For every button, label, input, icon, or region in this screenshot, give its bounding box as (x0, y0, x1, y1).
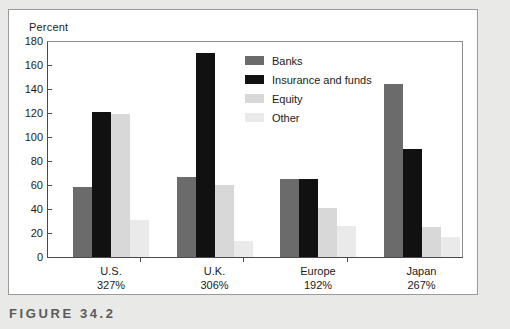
bar-group (384, 41, 460, 257)
bar[interactable] (196, 53, 215, 257)
x-axis-label: U.K.306% (165, 264, 265, 292)
bar[interactable] (73, 187, 92, 257)
x-axis-label-percent: 306% (165, 278, 265, 292)
y-axis-tick-label: 0 (37, 251, 43, 263)
bar[interactable] (177, 177, 196, 257)
legend-item[interactable]: Equity (245, 90, 372, 107)
y-axis-tick-labels: 180160140120100806040200 (9, 10, 43, 329)
y-axis-tick-label: 120 (25, 107, 43, 119)
x-axis-label-name: U.K. (204, 265, 225, 277)
legend-item[interactable]: Banks (245, 52, 372, 69)
figure-caption: FIGURE 34.2 (9, 306, 116, 321)
y-axis-tick-mark (47, 233, 52, 234)
bar-group (73, 41, 149, 257)
legend-label: Insurance and funds (272, 74, 372, 86)
legend-swatch-icon (245, 113, 264, 122)
legend-swatch-icon (245, 75, 264, 84)
bar[interactable] (337, 226, 356, 257)
legend-item[interactable]: Other (245, 109, 372, 126)
x-axis-label-name: Europe (300, 265, 335, 277)
x-axis-tick-mark (140, 257, 141, 262)
bar[interactable] (111, 114, 130, 257)
x-axis-label-percent: 327% (61, 278, 161, 292)
y-axis-tick-label: 20 (31, 227, 43, 239)
y-axis-tick-label: 100 (25, 131, 43, 143)
y-axis-tick-mark (47, 185, 52, 186)
legend-label: Equity (272, 93, 303, 105)
y-axis-tick-label: 80 (31, 155, 43, 167)
x-axis-label: Europe192% (268, 264, 368, 292)
y-axis-tick-label: 40 (31, 203, 43, 215)
x-axis-label-percent: 192% (268, 278, 368, 292)
bar-group (177, 41, 253, 257)
y-axis-tick-mark (47, 113, 52, 114)
y-axis-tick-label: 60 (31, 179, 43, 191)
chart-legend: BanksInsurance and fundsEquityOther (245, 52, 372, 128)
legend-item[interactable]: Insurance and funds (245, 71, 372, 88)
legend-swatch-icon (245, 94, 264, 103)
bar[interactable] (403, 149, 422, 257)
x-axis-baseline (47, 257, 463, 258)
bar[interactable] (299, 179, 318, 257)
x-axis-label: Japan267% (372, 264, 472, 292)
legend-label: Other (272, 112, 300, 124)
bar[interactable] (441, 237, 460, 257)
y-axis-tick-label: 160 (25, 59, 43, 71)
bar[interactable] (92, 112, 111, 257)
bar[interactable] (234, 241, 253, 257)
y-axis-tick-mark (47, 161, 52, 162)
y-axis-tick-mark (47, 65, 52, 66)
bar[interactable] (280, 179, 299, 257)
x-axis-label-percent: 267% (372, 278, 472, 292)
legend-label: Banks (272, 55, 303, 67)
bar[interactable] (130, 220, 149, 257)
figure-panel: Percent 180160140120100806040200 BanksIn… (8, 9, 478, 295)
y-axis-tick-mark (47, 89, 52, 90)
x-axis-label-name: U.S. (100, 265, 121, 277)
y-axis-tick-mark (47, 137, 52, 138)
legend-swatch-icon (245, 56, 264, 65)
bar[interactable] (384, 84, 403, 257)
bar[interactable] (318, 208, 337, 257)
y-axis-tick-mark (47, 209, 52, 210)
y-axis-tick-label: 180 (25, 35, 43, 47)
bar[interactable] (215, 185, 234, 257)
y-axis-tick-label: 140 (25, 83, 43, 95)
figure-container: Percent 180160140120100806040200 BanksIn… (0, 0, 510, 329)
x-axis-label-name: Japan (407, 265, 437, 277)
x-axis-tick-mark (243, 257, 244, 262)
x-axis-label: U.S.327% (61, 264, 161, 292)
x-axis-tick-mark (347, 257, 348, 262)
bar[interactable] (422, 227, 441, 257)
